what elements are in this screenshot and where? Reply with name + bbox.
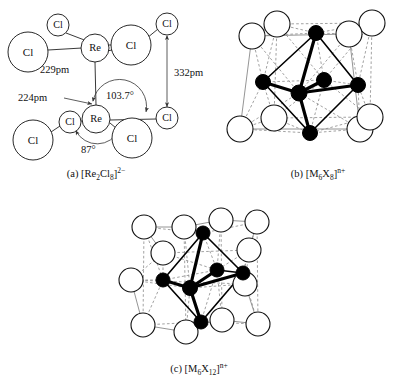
dimension-332pm: 332pm [167,36,203,107]
dim-text-229pm: 229pm [40,64,69,75]
panel-b-m6x8: (b) [M6X8]n+ [227,10,385,182]
halide-atom [209,208,233,232]
metal-atom [194,315,208,329]
halide-atom [131,313,155,337]
panel-c-m6x12: (c) [M6X12]n+ [119,208,270,377]
metal-atom [210,263,224,277]
angle-text-87: 87° [81,144,96,155]
dimension-224pm: 224pm [18,92,92,104]
atom-label-cl: Cl [127,132,137,144]
bond-cl-cl-lower-left [51,126,60,132]
panel-c-core-bonds [163,233,243,322]
atom-label-cl: Cl [23,46,33,58]
atom-cl-upper-right: Cl [111,25,151,65]
bond-re-cl-left-upper [48,48,82,50]
atom-re-lower: Re [82,105,110,133]
halide-atom [261,105,287,131]
halide-atom [246,312,270,336]
atom-cl-lower-far-right: Cl [156,107,178,129]
panel-a-atoms: Cl Cl Re Cl Cl Cl [8,13,178,160]
atom-label-cl: Cl [126,39,136,51]
halide-atom [119,268,143,292]
atom-label-cl: Cl [162,112,172,123]
angle-text-103-7: 103.7° [106,90,134,101]
atom-cl-upper-left: Cl [8,32,48,72]
atom-label-cl: Cl [28,134,38,146]
atom-cl-lower-right: Cl [112,118,152,158]
atom-cl-upper-far-right: Cl [156,13,178,35]
dim-text-332pm: 332pm [174,67,203,78]
bond-re-re [95,62,96,105]
metal-atom [196,226,210,240]
halide-atom [210,308,234,332]
atom-label-cl: Cl [53,19,63,30]
caption-panel-a: (a) [Re2Cl8]2− [67,166,125,182]
metal-atom [317,73,332,88]
metal-atom [303,126,318,141]
panel-a-re2cl8: 332pm 229pm 224pm 103.7° 87° Cl [8,13,203,182]
dim-text-224pm: 224pm [18,92,47,103]
atom-label-re: Re [89,42,101,53]
halide-atom [172,215,196,239]
halide-atom [357,104,383,130]
halide-atom [227,116,253,142]
dim-arrow-224pm [64,98,92,104]
chemistry-figure: 332pm 229pm 224pm 103.7° 87° Cl [0,0,397,391]
atom-label-re: Re [90,113,102,124]
atom-cl-upper-top: Cl [47,14,69,36]
caption-panel-b: (b) [M6X8]n+ [291,166,345,182]
atom-cl-lower-left-small: Cl [59,111,81,133]
caption-panel-c: (c) [M6X12]n+ [170,361,227,377]
halide-atom [245,210,269,234]
metal-atom [156,273,170,287]
metal-atom-center [291,85,307,101]
halide-atom [264,11,290,37]
halide-atom [359,10,385,36]
metal-atom [256,75,271,90]
halide-atom [151,241,175,265]
metal-atom-center [183,281,198,296]
metal-atom [309,26,324,41]
metal-atom [236,266,250,280]
atom-label-cl: Cl [162,18,172,29]
halide-atom [239,23,265,49]
metal-atom [351,78,366,93]
atom-cl-lower-far-left: Cl [13,120,53,160]
halide-atom [237,238,261,262]
halide-atom [336,21,362,47]
atom-label-cl: Cl [65,116,75,127]
atom-re-upper: Re [81,34,109,62]
halide-atom [132,215,156,239]
figure-canvas: 332pm 229pm 224pm 103.7° 87° Cl [0,0,397,391]
